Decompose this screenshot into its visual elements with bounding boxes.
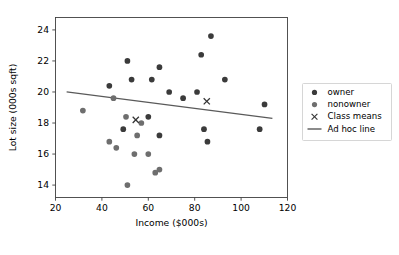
data-point-nonowner-10 (145, 151, 151, 157)
data-point-nonowner-8 (134, 133, 140, 139)
y-tick-label-4: 22 (37, 55, 49, 66)
legend-marker-nonowner (312, 102, 317, 107)
data-point-owner-6 (257, 126, 263, 132)
data-point-nonowner-7 (152, 170, 158, 176)
data-point-owner-5 (262, 102, 268, 108)
data-point-owner-12 (180, 95, 186, 101)
data-point-owner-14 (157, 133, 163, 139)
x-tick-label-5: 120 (279, 202, 297, 213)
x-tick-label-3: 80 (189, 202, 201, 213)
data-point-owner-11 (194, 89, 200, 95)
legend-label-nonowner: nonowner (328, 99, 371, 109)
data-point-owner-15 (106, 83, 112, 89)
legend-marker-owner (312, 90, 317, 95)
data-point-owner-8 (166, 89, 172, 95)
legend-label-class-means: Class means (328, 111, 383, 121)
plot-area-frame (56, 18, 288, 198)
data-point-nonowner-0 (80, 108, 86, 114)
plot-canvas: 20406080100120141618202224Income ($000s)… (0, 0, 399, 255)
y-tick-label-3: 20 (37, 86, 49, 97)
data-point-owner-9 (222, 77, 228, 83)
data-point-owner-13 (129, 77, 135, 83)
x-tick-label-4: 100 (232, 202, 250, 213)
data-point-nonowner-4 (106, 139, 112, 145)
x-axis-title: Income ($000s) (135, 217, 207, 228)
data-point-nonowner-11 (132, 151, 138, 157)
y-tick-label-5: 24 (37, 24, 49, 35)
data-point-owner-7 (198, 52, 204, 58)
data-point-owner-3 (149, 77, 155, 83)
data-point-nonowner-9 (123, 114, 129, 120)
data-point-owner-17 (120, 126, 126, 132)
y-tick-label-2: 18 (37, 117, 49, 128)
y-tick-label-1: 16 (37, 148, 49, 159)
data-point-nonowner-2 (111, 95, 117, 101)
x-tick-label-1: 40 (96, 202, 108, 213)
data-point-owner-2 (157, 64, 163, 70)
y-tick-label-0: 14 (37, 179, 49, 190)
legend-label-owner: owner (328, 87, 355, 97)
data-point-owner-4 (208, 33, 214, 39)
scatter-plot-figure: 20406080100120141618202224Income ($000s)… (0, 0, 399, 255)
data-point-nonowner-1 (125, 182, 131, 188)
y-axis-title: Lot size (000s sqft) (7, 64, 18, 152)
data-point-owner-1 (205, 139, 211, 145)
x-tick-label-0: 20 (50, 202, 62, 213)
x-tick-label-2: 60 (142, 202, 154, 213)
data-point-owner-10 (125, 58, 131, 64)
data-point-nonowner-5 (138, 120, 144, 126)
data-point-owner-0 (145, 114, 151, 120)
data-point-owner-16 (201, 126, 207, 132)
data-point-nonowner-3 (113, 145, 119, 151)
legend-label-ad-hoc-line: Ad hoc line (328, 124, 376, 134)
